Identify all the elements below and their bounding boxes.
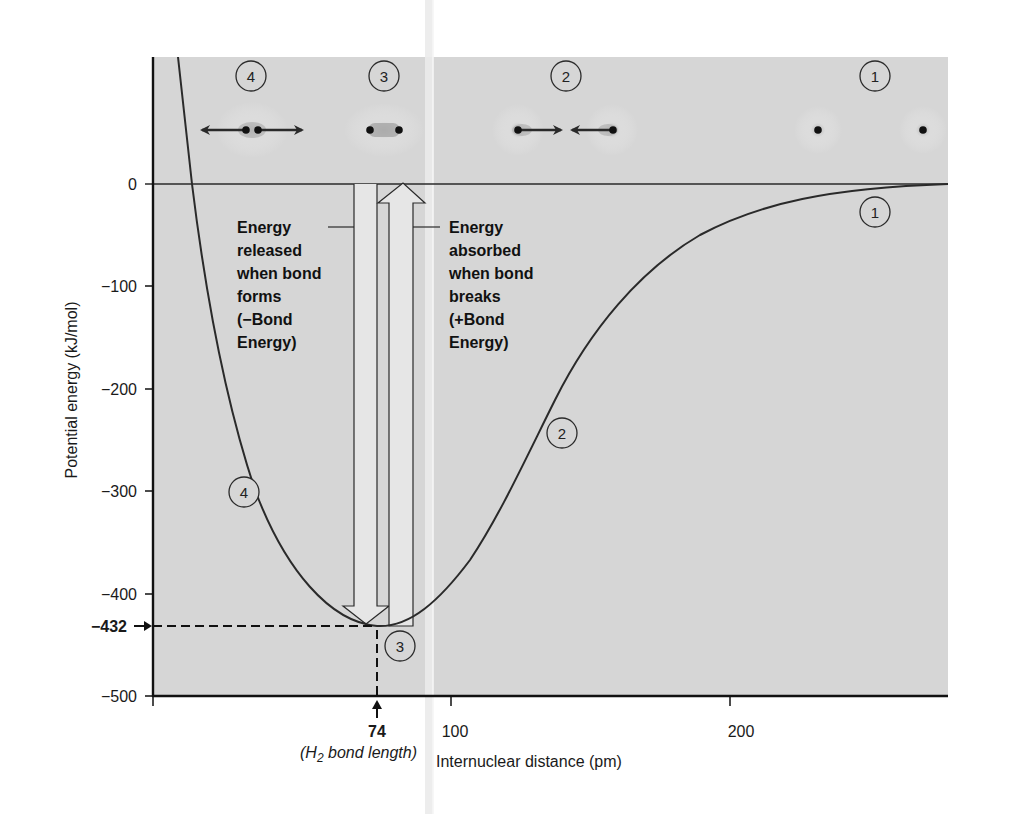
svg-text:−200: −200: [101, 381, 137, 398]
svg-text:−400: −400: [101, 586, 137, 603]
min-energy-label: −432: [91, 618, 127, 635]
y-axis-title: Potential energy (kJ/mol): [63, 302, 80, 479]
svg-text:released: released: [237, 242, 302, 259]
curve-label-3: 3: [396, 638, 404, 655]
svg-text:−500: −500: [101, 688, 137, 705]
stage-label-3: 3: [380, 68, 388, 85]
bond-length-pointer-icon: [372, 700, 382, 709]
svg-text:−300: −300: [101, 483, 137, 500]
curve-label-4: 4: [240, 484, 248, 501]
stage-label-4: 4: [247, 68, 255, 85]
svg-text:100: 100: [442, 723, 469, 740]
stage-label-2: 2: [562, 68, 570, 85]
curve-label-1: 1: [871, 204, 879, 221]
page-crease: [425, 0, 433, 814]
svg-text:forms: forms: [237, 288, 282, 305]
y-tick-labels: 0 −100 −200 −300 −400 −432 −500: [91, 176, 137, 705]
svg-text:0: 0: [128, 176, 137, 193]
svg-text:when bond: when bond: [448, 265, 533, 282]
potential-energy-chart: 4 3 2 1 Energy released when bond forms …: [0, 0, 1009, 814]
svg-text:200: 200: [728, 723, 755, 740]
stage-label-1: 1: [871, 68, 879, 85]
svg-text:absorbed: absorbed: [449, 242, 521, 259]
svg-text:Energy: Energy: [449, 219, 503, 236]
svg-text:Energy: Energy: [237, 219, 291, 236]
x-axis-title: Internuclear distance (pm): [436, 753, 622, 770]
svg-text:Energy): Energy): [237, 334, 297, 351]
svg-text:breaks: breaks: [449, 288, 501, 305]
svg-text:(−Bond: (−Bond: [237, 311, 293, 328]
svg-text:Energy): Energy): [449, 334, 509, 351]
min-energy-pointer-icon: [144, 621, 152, 631]
bond-length-label: 74: [368, 723, 386, 740]
svg-text:when bond: when bond: [236, 265, 321, 282]
bond-length-sublabel: (H2 bond length): [300, 744, 417, 765]
curve-label-2: 2: [558, 425, 566, 442]
svg-text:(+Bond: (+Bond: [449, 311, 505, 328]
svg-text:−100: −100: [101, 278, 137, 295]
